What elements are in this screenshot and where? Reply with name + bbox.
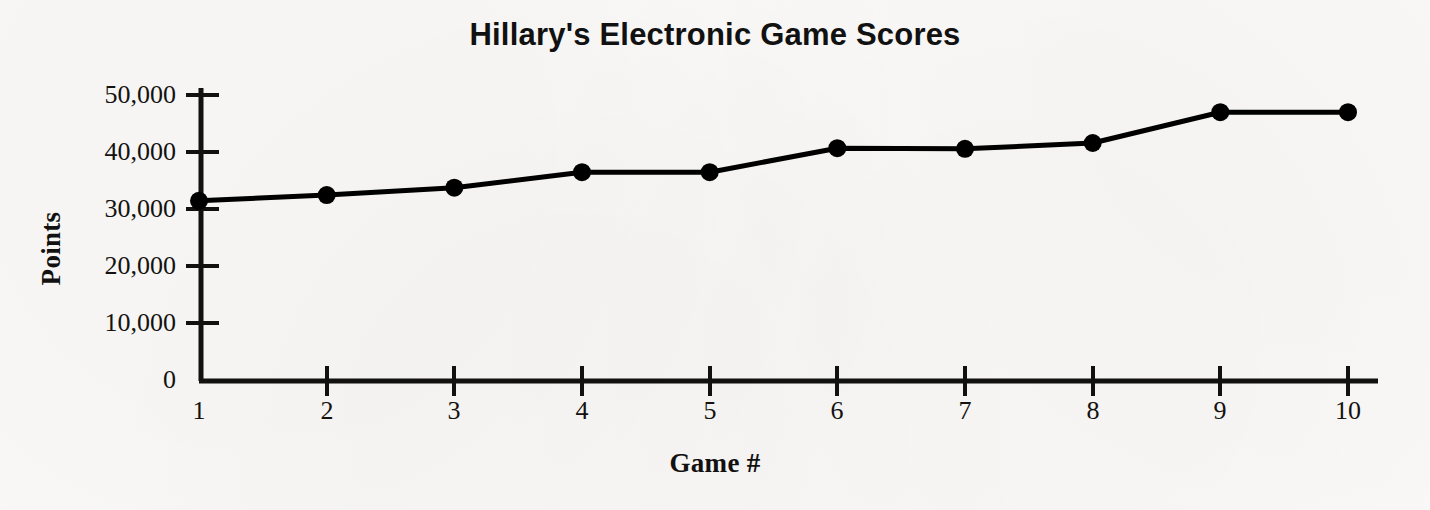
x-axis-title: Game # (0, 448, 1430, 479)
x-tick-label-6: 6 (807, 398, 867, 424)
y-axis-title: Points (36, 189, 67, 309)
data-point-marker (573, 163, 591, 181)
data-point-marker (318, 186, 336, 204)
data-point-marker (701, 163, 719, 181)
x-tick-label-10: 10 (1318, 398, 1378, 424)
x-tick-label-5: 5 (680, 398, 740, 424)
data-point-marker (1339, 103, 1357, 121)
y-tick-label-40000: 40,000 (24, 139, 176, 165)
chart-page: Hillary's Electronic Game Scores (0, 0, 1430, 510)
data-point-marker (956, 140, 974, 158)
y-tick-label-0: 0 (24, 367, 176, 393)
data-point-marker (1084, 134, 1102, 152)
line-chart-plot (0, 0, 1430, 510)
data-point-marker (1211, 103, 1229, 121)
y-tick-label-50000: 50,000 (24, 82, 176, 108)
data-point-marker (828, 139, 846, 157)
x-tick-label-3: 3 (424, 398, 484, 424)
x-tick-label-4: 4 (552, 398, 612, 424)
data-point-marker (190, 192, 208, 210)
x-tick-label-7: 7 (935, 398, 995, 424)
x-tick-label-2: 2 (297, 398, 357, 424)
x-tick-label-9: 9 (1190, 398, 1250, 424)
data-series-line (199, 112, 1348, 201)
y-tick-label-10000: 10,000 (24, 310, 176, 336)
data-point-marker (445, 179, 463, 197)
x-tick-label-1: 1 (169, 398, 229, 424)
x-tick-label-8: 8 (1063, 398, 1123, 424)
